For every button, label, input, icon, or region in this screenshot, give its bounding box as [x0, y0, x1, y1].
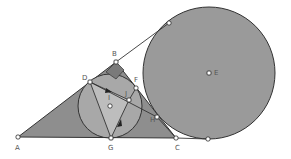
point-e[interactable] — [207, 71, 211, 75]
label-h: H — [150, 116, 155, 124]
label-g: G — [108, 144, 113, 152]
point-b[interactable] — [114, 60, 118, 64]
label-c: C — [175, 144, 180, 152]
point-tangent-bottom[interactable] — [206, 137, 210, 141]
point-h[interactable] — [155, 115, 159, 119]
point-j[interactable] — [127, 98, 131, 102]
label-j: J — [124, 90, 127, 98]
label-b: B — [112, 50, 117, 58]
point-tangent-top[interactable] — [167, 21, 171, 25]
point-a[interactable] — [16, 135, 20, 139]
point-g[interactable] — [109, 136, 113, 140]
point-c[interactable] — [174, 136, 178, 140]
point-i[interactable] — [108, 104, 112, 108]
label-a: A — [15, 144, 20, 152]
point-d[interactable] — [88, 80, 92, 84]
point-f[interactable] — [134, 86, 138, 90]
label-f: F — [134, 76, 138, 84]
label-i: I — [108, 94, 110, 102]
label-d: D — [82, 74, 87, 82]
label-e: E — [214, 69, 218, 77]
geometry-diagram: A B C D E F G H I J — [0, 0, 291, 159]
